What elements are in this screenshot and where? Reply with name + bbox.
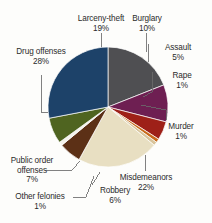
slice-label-murder-name: Murder [168, 122, 193, 131]
slice-label-robbery-pct: 6% [93, 196, 137, 206]
slice-label-robbery-name: Robbery [100, 186, 130, 195]
slice-label-rape-name: Rape [172, 71, 191, 80]
slice-label-murder-pct: 1% [156, 132, 206, 142]
slice-label-public-order-pct: 7% [1, 175, 63, 185]
slice-label-burglary: Burglary 10% [120, 14, 174, 33]
slice-label-rape: Rape 1% [160, 71, 204, 90]
slice-label-assault-name: Assault [165, 43, 191, 52]
slice-label-public-order-name: Public order [11, 156, 54, 165]
slice-label-drug-offenses-name: Drug offenses [16, 47, 66, 56]
slice-label-larceny-theft-name: Larceny-theft [78, 14, 125, 23]
slice-label-public-order-name2: offenses [1, 166, 63, 176]
slice-label-drug-offenses: Drug offenses 28% [6, 47, 76, 66]
pie-chart-figure: Larceny-theft 19% Burglary 10% Assault 5… [0, 0, 212, 223]
slice-label-burglary-name: Burglary [132, 14, 162, 23]
slice-label-assault: Assault 5% [152, 43, 204, 62]
slice-label-other-felonies: Other felonies 1% [8, 192, 72, 211]
slice-label-burglary-pct: 10% [120, 24, 174, 34]
slice-label-drug-offenses-pct: 28% [6, 57, 76, 67]
slice-label-robbery: Robbery 6% [93, 186, 137, 205]
leader-line-other-felonies [73, 176, 94, 197]
slice-label-public-order: Public order offenses 7% [1, 156, 63, 185]
slice-label-rape-pct: 1% [160, 81, 204, 91]
slice-label-other-felonies-name: Other felonies [15, 192, 65, 201]
slice-label-assault-pct: 5% [152, 53, 204, 63]
slice-label-other-felonies-pct: 1% [8, 202, 72, 212]
slice-label-murder: Murder 1% [156, 122, 206, 141]
leader-line-drug-offenses [41, 75, 48, 112]
slice-label-misdemeanors-name: Misdemeanors [120, 173, 173, 182]
